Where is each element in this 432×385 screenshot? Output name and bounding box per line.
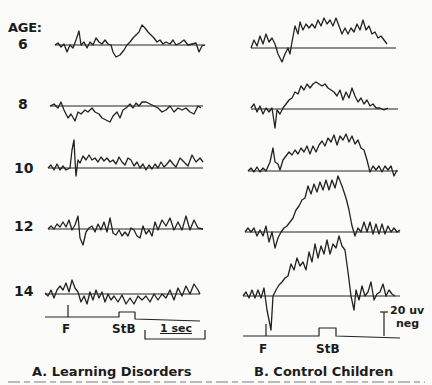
trace-b-14 bbox=[243, 236, 395, 330]
panel-a-title: A. Learning Disorders bbox=[32, 364, 191, 379]
trace-a-8 bbox=[50, 102, 201, 122]
amp-scale-value: 20 uv bbox=[390, 304, 424, 317]
cropped-caption-text bbox=[0, 379, 432, 385]
stb-label-a: StB bbox=[112, 322, 136, 336]
time-scale-label: 1 sec bbox=[160, 322, 192, 335]
trace-b-8 bbox=[251, 82, 388, 128]
stb-label-b: StB bbox=[316, 342, 340, 356]
trace-b-12 bbox=[245, 176, 400, 248]
amp-scale-polarity: neg bbox=[396, 317, 419, 330]
trace-a-10 bbox=[48, 140, 203, 176]
trace-a-12 bbox=[48, 216, 203, 245]
trace-b-10 bbox=[248, 134, 397, 176]
f-label-b: F bbox=[259, 342, 267, 356]
f-label-a: F bbox=[62, 322, 70, 336]
panel-a-baselines bbox=[45, 45, 205, 294]
trace-b-6 bbox=[251, 18, 387, 62]
trace-a-14 bbox=[45, 280, 200, 304]
trace-a-6 bbox=[55, 25, 205, 57]
panel-b-title: B. Control Children bbox=[254, 364, 393, 379]
